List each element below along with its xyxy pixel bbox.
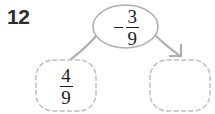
operation-numerator: 3 <box>127 7 139 26</box>
start-value-denominator: 9 <box>60 88 72 107</box>
start-value-fraction-stack: 4 9 <box>60 66 73 107</box>
operation-denominator: 9 <box>127 29 139 48</box>
start-value-fraction: 4 9 <box>46 66 86 106</box>
right-connector-path <box>156 36 179 55</box>
operation-oval-fraction: − 3 9 <box>100 8 152 46</box>
start-value-numerator: 4 <box>60 66 72 85</box>
answer-value-fraction[interactable] <box>160 66 200 106</box>
operation-sign: − <box>113 18 124 37</box>
operation-fraction-stack: 3 9 <box>126 7 139 48</box>
worksheet-problem-canvas: 12 − 3 9 4 9 <box>0 0 215 114</box>
left-connector-path <box>70 36 96 60</box>
